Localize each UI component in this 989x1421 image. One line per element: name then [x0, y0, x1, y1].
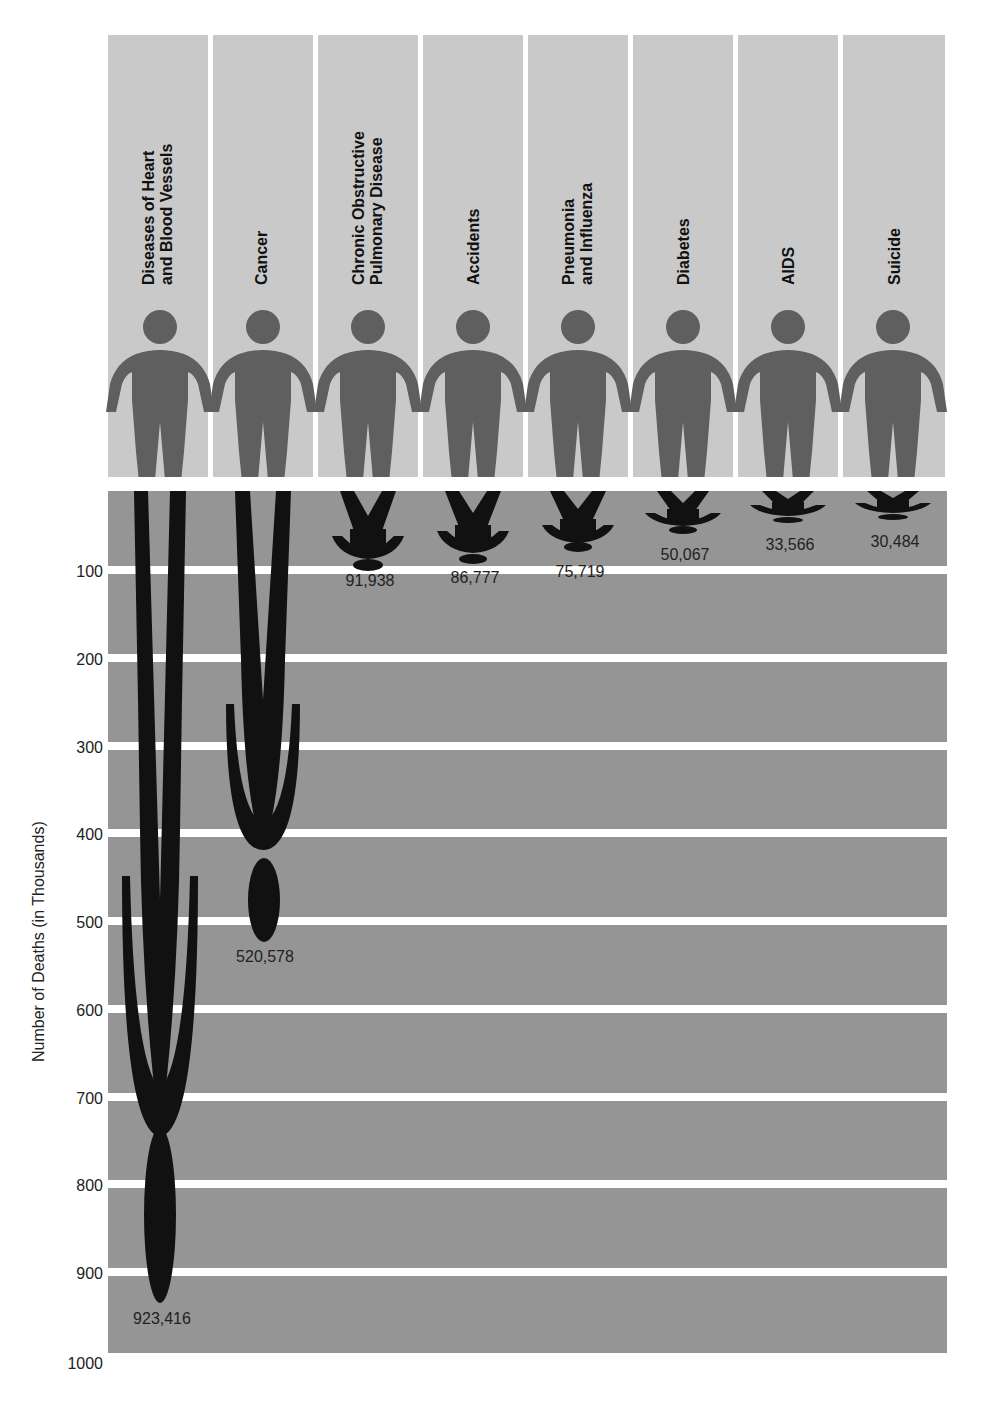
shadow-figure-copd [332, 491, 404, 571]
y-tick-900: 900 [43, 1265, 103, 1283]
value-label-copd: 91,938 [320, 572, 420, 590]
y-tick-1000: 1000 [43, 1355, 103, 1373]
y-tick-500: 500 [43, 914, 103, 932]
pictograph-chart: Diseases of Heart and Blood Vessels Canc… [0, 0, 989, 1421]
person-icon [106, 310, 214, 492]
person-icon [209, 310, 317, 492]
person-icon [839, 310, 947, 492]
figures-layer [0, 0, 989, 1421]
value-label-pneumonia: 75,719 [530, 563, 630, 581]
y-axis-title: Number of Deaths (in Thousands) [30, 821, 48, 1062]
value-label-heart: 923,416 [112, 1310, 212, 1328]
value-label-aids: 33,566 [740, 536, 840, 554]
y-tick-600: 600 [43, 1002, 103, 1020]
y-tick-300: 300 [43, 739, 103, 757]
value-label-cancer: 520,578 [215, 948, 315, 966]
person-icon [734, 310, 842, 492]
value-label-suicide: 30,484 [845, 533, 945, 551]
person-icon [629, 310, 737, 492]
shadow-figure-cancer [226, 491, 300, 942]
person-icon [419, 310, 527, 492]
shadow-figure-pneumonia [542, 491, 614, 552]
y-tick-100: 100 [43, 563, 103, 581]
person-icon [524, 310, 632, 492]
y-tick-800: 800 [43, 1177, 103, 1195]
shadow-figure-heart [122, 491, 198, 1303]
shadow-figure-aids [750, 491, 826, 523]
value-label-diabetes: 50,067 [635, 546, 735, 564]
shadow-figure-accidents [437, 491, 509, 564]
person-icon [314, 310, 422, 492]
y-tick-700: 700 [43, 1090, 103, 1108]
shadow-figure-diabetes [645, 491, 721, 534]
shadow-figure-suicide [855, 491, 931, 520]
y-tick-200: 200 [43, 651, 103, 669]
y-tick-400: 400 [43, 826, 103, 844]
value-label-accidents: 86,777 [425, 569, 525, 587]
